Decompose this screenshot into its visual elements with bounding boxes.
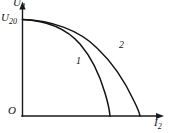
curve-series-2 xyxy=(23,20,141,117)
chart-figure: U2 I2 U20 O 1 2 xyxy=(0,0,171,133)
y-axis-label: U2 xyxy=(13,0,25,11)
curve-series-1 xyxy=(23,20,111,117)
curve-1-annotation: 1 xyxy=(76,56,81,66)
x-axis xyxy=(22,113,164,119)
chart-plot-area xyxy=(0,0,171,133)
y-axis xyxy=(19,2,25,117)
x-axis-label: I2 xyxy=(154,117,162,131)
origin-label: O xyxy=(8,105,16,116)
y-intercept-tick-label: U20 xyxy=(1,12,17,26)
curve-2-annotation: 2 xyxy=(119,40,124,50)
